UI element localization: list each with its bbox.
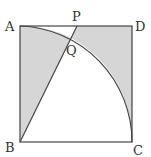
geometry-figure: A P D Q B C: [0, 0, 151, 157]
label-c: C: [133, 143, 143, 157]
label-a: A: [4, 19, 15, 34]
shaded-region-left: [20, 26, 71, 142]
label-b: B: [5, 140, 15, 155]
shaded-region-right: [71, 26, 132, 142]
label-q: Q: [66, 43, 77, 58]
label-d: D: [135, 19, 145, 34]
label-p: P: [72, 9, 81, 24]
